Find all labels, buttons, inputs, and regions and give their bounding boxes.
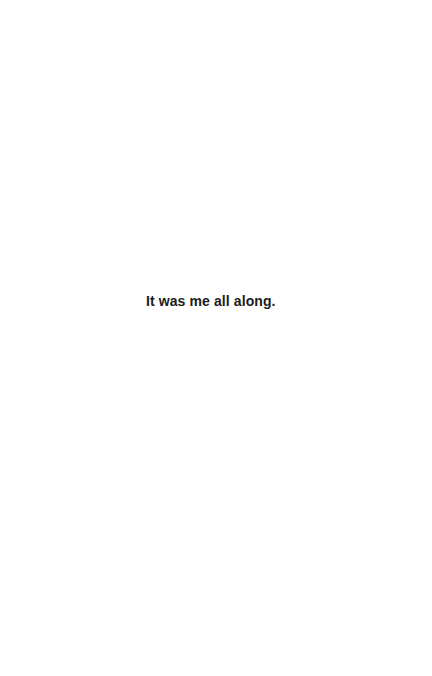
page-text: It was me all along.: [146, 292, 276, 310]
book-page: It was me all along.: [0, 0, 432, 676]
